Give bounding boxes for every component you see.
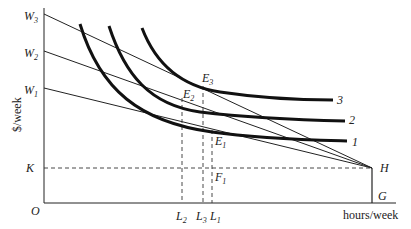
tick-k: K bbox=[25, 161, 35, 175]
curve-label-3: 3 bbox=[336, 93, 343, 107]
indifference-curve-1 bbox=[80, 24, 347, 141]
indifference-curve-2 bbox=[109, 26, 345, 121]
budget-line-w2 bbox=[44, 51, 372, 168]
curve-label-1: 1 bbox=[352, 135, 358, 149]
tick-w3: W3 bbox=[24, 9, 38, 25]
indifference-curve-3 bbox=[142, 28, 333, 100]
point-e2: E2 bbox=[182, 87, 194, 103]
y-axis-label: $/week bbox=[10, 97, 24, 132]
tick-l2: L2 bbox=[175, 209, 187, 225]
x-axis-label: hours/week bbox=[343, 208, 398, 222]
tick-l1: L1 bbox=[209, 209, 221, 225]
point-f1: F1 bbox=[214, 170, 226, 186]
origin-label: O bbox=[31, 204, 40, 218]
point-g: G bbox=[378, 189, 387, 203]
tick-l3: L3 bbox=[195, 209, 207, 225]
point-h: H bbox=[379, 161, 390, 175]
tick-w2: W2 bbox=[24, 46, 38, 62]
labor-supply-diagram: W3 W2 W1 K $/week O L2 L3 L1 hours/week … bbox=[0, 0, 411, 229]
point-e1: E1 bbox=[214, 134, 226, 150]
curve-label-2: 2 bbox=[349, 113, 355, 127]
point-e3: E3 bbox=[201, 71, 213, 87]
tick-w1: W1 bbox=[24, 83, 38, 99]
